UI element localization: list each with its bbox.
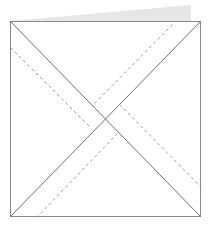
fold-diagram — [0, 0, 211, 226]
card-flap-shading — [10, 5, 191, 21]
